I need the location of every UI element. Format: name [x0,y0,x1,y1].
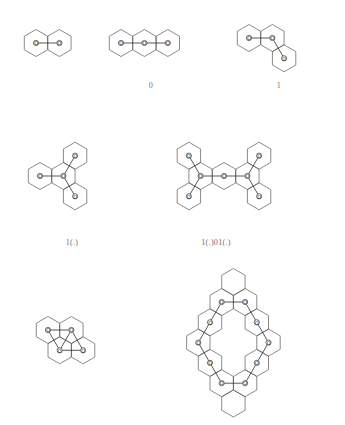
bond-edge [200,325,209,341]
oxygen-node-label: O [257,153,261,159]
oxygen-node-label: O [243,380,247,386]
oxygen-node-label: O [196,340,200,346]
structure-canvas: OOOO [24,126,129,226]
oxygen-node-label: O [243,299,247,305]
hexagon-ring [222,390,245,417]
oxygen-node-label: O [46,327,50,333]
bond-edge [249,178,258,194]
bond-edge [274,40,283,56]
oxygen-node-label: O [73,153,77,159]
oxygen-node-label: O [282,56,286,62]
oxygen-node-label: O [166,40,170,46]
oxygen-node-label: O [255,360,259,366]
structure-canvas: OOOOOOO [150,126,300,226]
oxygen-node-label: O [58,40,62,46]
bond-edge [190,158,199,174]
oxygen-node-label: O [220,299,224,305]
structure-four-ring-cycle: OOOO [28,300,128,390]
structure-canvas: OOOOOOOOOO [172,282,294,422]
oxygen-node-label: O [220,380,224,386]
figure-sheet: OOOOO0OOO1OOOO1(.)OOOOOOO1(.)01(.)OOOOOO… [0,0,345,425]
oxygen-node-label: O [255,320,259,326]
oxygen-node-label: O [38,173,42,179]
oxygen-node-label: O [73,194,77,200]
structure-caption: 0 [149,81,153,90]
oxygen-node-label: O [58,348,62,354]
bond-edge [200,345,209,361]
structure-caption: 1(.) [66,238,79,247]
oxygen-node-label: O [143,40,147,46]
oxygen-node-label: O [34,40,38,46]
oxygen-node-label: O [247,35,251,41]
oxygen-node-label: O [208,360,212,366]
structure-canvas: OOO [233,10,338,88]
oxygen-node-label: O [62,173,66,179]
structure-caption: 1 [277,81,281,90]
oxygen-node-label: O [257,194,261,200]
oxygen-node-label: O [70,327,74,333]
oxygen-node-label: O [271,35,275,41]
hexagon-ring [222,269,245,296]
oxygen-node-label: O [208,320,212,326]
structure-seven-ring-symmetric: OOOOOOO [150,126,300,226]
node-group: OOOOOOOOOO [196,299,271,386]
structure-canvas: OOOO [28,300,128,390]
oxygen-node-label: O [199,173,203,179]
bond-edge [246,365,255,381]
bond-edge [65,178,74,194]
oxygen-node-label: O [187,153,191,159]
oxygen-node-label: O [81,348,85,354]
ring-group [237,25,295,72]
structure-canvas: OO [12,12,108,74]
bond-edge [49,332,58,348]
structure-three-ring-linear: OOO [105,12,210,74]
bond-edge [190,178,199,194]
structure-canvas: OOO [105,12,210,74]
structure-twelve-ring-macrocycle: OOOOOOOOOO [172,282,294,422]
bond-edge [258,345,267,361]
bond-edge [65,158,74,174]
bond-edge [61,332,70,348]
oxygen-node-label: O [267,340,271,346]
structure-four-ring-branched: OOOO [24,126,129,226]
oxygen-node-label: O [187,194,191,200]
structure-two-ring-linear: OO [12,12,108,74]
bond-edge [249,158,258,174]
oxygen-node-label: O [246,173,250,179]
oxygen-node-label: O [119,40,123,46]
bond-edge [211,304,220,320]
bond-edge [246,304,255,320]
node-group: OOOOOOO [186,153,261,200]
structure-three-ring-angular: OOO [233,10,338,88]
bond-group [43,158,74,194]
oxygen-node-label: O [222,173,226,179]
bond-edge [73,332,82,348]
bond-edge [258,325,267,341]
bond-edge [211,365,220,381]
structure-caption: 1(.)01(.) [201,238,230,247]
bond-group [49,330,82,350]
